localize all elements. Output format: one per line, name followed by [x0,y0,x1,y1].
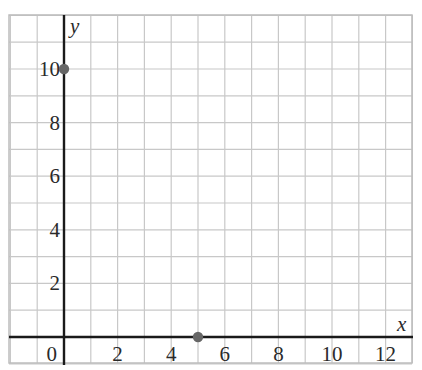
y-tick-label: 8 [50,111,61,135]
axes [9,15,413,365]
x-tick-label: 12 [375,342,396,366]
y-tick-label: 10 [39,57,60,81]
tick-labels: 024681012246810 [39,57,396,366]
y-tick-label: 6 [50,164,61,188]
coordinate-grid-chart: 024681012246810 x y [0,0,422,370]
y-axis-label: y [68,14,80,38]
grid-lines [9,15,412,364]
x-tick-label: 10 [322,342,343,366]
data-point [193,332,203,342]
data-point [59,64,69,74]
x-axis-label: x [396,312,407,336]
x-tick-label: 6 [220,342,231,366]
y-tick-label: 2 [50,271,61,295]
x-tick-label: 8 [273,342,284,366]
y-tick-label: 4 [50,218,61,242]
x-tick-label: 2 [112,342,123,366]
x-tick-label: 0 [47,342,58,366]
x-tick-label: 4 [166,342,177,366]
